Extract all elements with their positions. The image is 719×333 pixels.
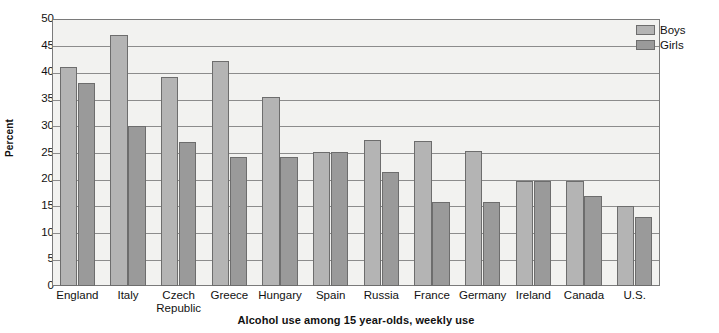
bar-girls-england bbox=[78, 83, 96, 286]
x-axis-label-line: Russia bbox=[356, 289, 407, 302]
bar-group bbox=[364, 19, 400, 286]
x-axis-label-france: France bbox=[407, 289, 458, 302]
bar-group bbox=[110, 19, 146, 286]
x-axis-label-ireland: Ireland bbox=[508, 289, 559, 302]
y-axis-tick-label: 20 bbox=[14, 173, 54, 184]
bar-boys-spain bbox=[313, 152, 331, 286]
bar-group bbox=[60, 19, 96, 286]
bar-boys-canada bbox=[566, 181, 584, 286]
x-axis-label-line: U.S. bbox=[609, 289, 660, 302]
x-axis-label-canada: Canada bbox=[559, 289, 610, 302]
x-axis-label-line: Italy bbox=[103, 289, 154, 302]
x-axis-label-line: Ireland bbox=[508, 289, 559, 302]
chart-caption: Alcohol use among 15 year-olds, weekly u… bbox=[52, 314, 660, 326]
x-axis-label-spain: Spain bbox=[305, 289, 356, 302]
legend-label-boys: Boys bbox=[660, 24, 686, 36]
bar-girls-hungary bbox=[280, 157, 298, 286]
bar-chart: Percent 05101520253035404550 EnglandItal… bbox=[0, 0, 719, 333]
x-axis-label-u-s-: U.S. bbox=[609, 289, 660, 302]
x-axis-label-england: England bbox=[52, 289, 103, 302]
y-axis-tick-label: 5 bbox=[14, 253, 54, 264]
bar-group bbox=[212, 19, 248, 286]
y-axis-tick-label: 15 bbox=[14, 200, 54, 211]
bar-boys-germany bbox=[465, 151, 483, 286]
bar-group bbox=[262, 19, 298, 286]
y-axis-tick-label: 40 bbox=[14, 66, 54, 77]
x-axis-label-line: Czech bbox=[153, 289, 204, 302]
x-axis-label-line: Spain bbox=[305, 289, 356, 302]
bar-girls-germany bbox=[483, 202, 501, 286]
bar-boys-italy bbox=[110, 35, 128, 287]
bar-group bbox=[465, 19, 501, 286]
bar-boys-greece bbox=[212, 61, 230, 286]
y-axis-tick-label: 35 bbox=[14, 93, 54, 104]
x-axis-label-line: Canada bbox=[559, 289, 610, 302]
bar-girls-spain bbox=[331, 152, 349, 286]
y-axis-tick-label: 25 bbox=[14, 147, 54, 158]
y-axis-tick-label: 0 bbox=[14, 280, 54, 291]
legend-label-girls: Girls bbox=[660, 39, 684, 51]
bar-boys-ireland bbox=[516, 181, 534, 286]
bar-group bbox=[414, 19, 450, 286]
y-axis-title-text: Percent bbox=[4, 98, 15, 178]
x-axis-label-hungary: Hungary bbox=[255, 289, 306, 302]
bar-boys-u-s- bbox=[617, 206, 635, 286]
x-axis-label-line: Hungary bbox=[255, 289, 306, 302]
bars-layer bbox=[52, 19, 660, 286]
bar-group bbox=[516, 19, 552, 286]
x-axis-label-line: England bbox=[52, 289, 103, 302]
bar-girls-canada bbox=[584, 196, 602, 286]
legend: Boys Girls bbox=[636, 23, 716, 53]
y-axis-tick-label: 10 bbox=[14, 227, 54, 238]
x-axis-label-germany: Germany bbox=[457, 289, 508, 302]
bar-boys-england bbox=[60, 67, 78, 286]
y-axis-tick-label: 45 bbox=[14, 40, 54, 51]
x-axis-label-russia: Russia bbox=[356, 289, 407, 302]
bar-boys-hungary bbox=[262, 97, 280, 286]
x-axis-label-greece: Greece bbox=[204, 289, 255, 302]
legend-swatch-boys-icon bbox=[636, 25, 655, 35]
legend-item-boys: Boys bbox=[636, 23, 716, 37]
x-axis-label-czech-republic: CzechRepublic bbox=[153, 289, 204, 315]
legend-swatch-girls-icon bbox=[636, 40, 655, 50]
bar-girls-czech-republic bbox=[179, 142, 197, 286]
bar-girls-italy bbox=[128, 126, 146, 286]
bar-boys-russia bbox=[364, 140, 382, 286]
x-axis-label-line: France bbox=[407, 289, 458, 302]
bar-boys-czech-republic bbox=[161, 77, 179, 286]
bar-group bbox=[161, 19, 197, 286]
bar-group bbox=[617, 19, 653, 286]
legend-item-girls: Girls bbox=[636, 38, 716, 52]
bar-girls-ireland bbox=[534, 181, 552, 286]
x-axis-label-italy: Italy bbox=[103, 289, 154, 302]
bar-boys-france bbox=[414, 141, 432, 286]
bar-girls-france bbox=[432, 202, 450, 286]
x-axis-label-line: Greece bbox=[204, 289, 255, 302]
bar-girls-u-s- bbox=[635, 217, 653, 286]
x-axis-label-line: Germany bbox=[457, 289, 508, 302]
bar-girls-greece bbox=[230, 157, 248, 286]
bar-group bbox=[566, 19, 602, 286]
y-axis-tick-label: 50 bbox=[14, 13, 54, 24]
bar-group bbox=[313, 19, 349, 286]
bar-girls-russia bbox=[382, 172, 400, 286]
y-axis-tick-label: 30 bbox=[14, 120, 54, 131]
